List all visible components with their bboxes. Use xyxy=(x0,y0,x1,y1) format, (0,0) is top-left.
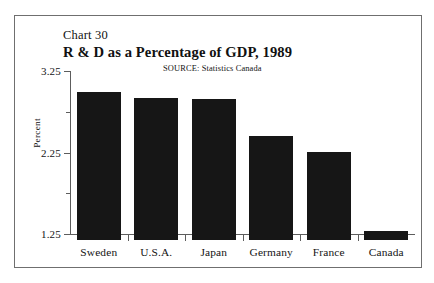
y-axis-tick-label: 1.25 xyxy=(41,228,61,240)
plot-area: 3.252.251.25 SwedenU.S.A.JapanGermanyFra… xyxy=(70,66,415,240)
x-axis-tick-label: Germany xyxy=(250,246,293,258)
bar xyxy=(249,136,293,240)
x-axis-tick-label: France xyxy=(313,246,345,258)
bar xyxy=(307,152,351,240)
y-axis-minor-tick xyxy=(66,112,70,113)
x-axis-tick xyxy=(358,235,359,241)
y-axis-tick xyxy=(64,234,70,235)
y-axis-minor-tick xyxy=(66,193,70,194)
x-axis-tick-label: Japan xyxy=(200,246,227,258)
bar xyxy=(134,98,178,240)
y-axis-tick xyxy=(64,153,70,154)
bar xyxy=(364,231,408,240)
x-axis-tick-label: Canada xyxy=(369,246,404,258)
x-axis-tick xyxy=(128,235,129,241)
bar xyxy=(77,92,121,240)
x-axis-tick xyxy=(185,235,186,241)
chart-number-label: Chart 30 xyxy=(63,28,108,43)
x-axis-tick xyxy=(243,235,244,241)
chart-title: R & D as a Percentage of GDP, 1989 xyxy=(63,44,292,61)
x-axis-tick-label: Sweden xyxy=(80,246,117,258)
y-axis-tick xyxy=(64,71,70,72)
y-axis-tick-label: 3.25 xyxy=(41,65,61,77)
bar xyxy=(192,99,236,240)
x-axis-tick xyxy=(300,235,301,241)
y-axis-tick-label: 2.25 xyxy=(41,147,61,159)
chart-frame: Chart 30 R & D as a Percentage of GDP, 1… xyxy=(14,15,422,268)
x-axis-tick-label: U.S.A. xyxy=(140,246,172,258)
y-axis-line xyxy=(70,71,71,235)
